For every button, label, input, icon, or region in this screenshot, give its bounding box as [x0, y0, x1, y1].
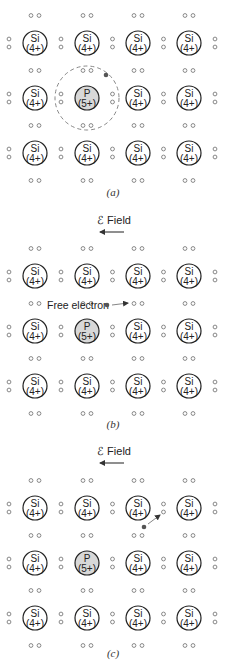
valence-electron-icon [183, 589, 187, 593]
valence-electron-icon [132, 124, 136, 128]
valence-electron-icon [111, 270, 115, 274]
valence-electron-icon [59, 37, 63, 41]
valence-electron-icon [213, 510, 217, 514]
valence-electron-icon [191, 124, 195, 128]
valence-electron-icon [89, 69, 93, 73]
valence-electron-icon [132, 302, 136, 306]
silicon-atom: Si(4+) [177, 31, 201, 55]
atom-charge: (4+) [26, 43, 44, 54]
valence-electron-icon [213, 388, 217, 392]
atom-charge: (4+) [26, 153, 44, 164]
silicon-atom: Si(4+) [23, 86, 47, 110]
silicon-atom: Si(4+) [75, 141, 99, 165]
silicon-atom: Si(4+) [126, 551, 150, 575]
valence-electron-icon [111, 380, 115, 384]
valence-electron-icon [132, 179, 136, 183]
atom-charge: (4+) [26, 508, 44, 519]
atom-charge: (4+) [78, 386, 96, 397]
valence-electron-icon [140, 644, 144, 648]
atom-charge: (4+) [129, 153, 147, 164]
valence-electron-icon [89, 534, 93, 538]
valence-electron-icon [213, 325, 217, 329]
valence-electron-icon [111, 37, 115, 41]
valence-electron-icon [7, 565, 11, 569]
valence-electron-icon [162, 557, 166, 561]
valence-electron-icon [132, 357, 136, 361]
atom-charge: (4+) [78, 618, 96, 629]
valence-electron-icon [7, 270, 11, 274]
valence-electron-icon [89, 247, 93, 251]
valence-electron-icon [191, 412, 195, 416]
valence-electron-icon [37, 69, 41, 73]
valence-electron-icon [132, 589, 136, 593]
atom-charge: (4+) [129, 98, 147, 109]
valence-electron-icon [191, 302, 195, 306]
valence-electron-icon [140, 479, 144, 483]
valence-electron-icon [213, 45, 217, 49]
valence-electron-icon [7, 612, 11, 616]
valence-electron-icon [89, 412, 93, 416]
phosphorus-atom: P(5+) [75, 319, 99, 343]
valence-electron-icon [111, 45, 115, 49]
valence-electron-icon [213, 612, 217, 616]
valence-electron-icon [37, 357, 41, 361]
valence-electron-icon [111, 565, 115, 569]
electron-motion-arrow-icon [112, 303, 128, 305]
atom-charge: (4+) [180, 276, 198, 287]
silicon-atom: Si(4+) [126, 319, 150, 343]
valence-electron-icon [59, 147, 63, 151]
valence-electron-icon [213, 155, 217, 159]
valence-electron-icon [111, 502, 115, 506]
valence-electron-icon [89, 124, 93, 128]
valence-electron-icon [29, 479, 33, 483]
valence-electron-icon [81, 14, 85, 18]
valence-electron-icon [29, 589, 33, 593]
atom-charge: (5+) [78, 98, 96, 109]
valence-electron-icon [59, 557, 63, 561]
valence-electron-icon [140, 357, 144, 361]
donor-lattice-diagram: Si(4+)Si(4+)Si(4+)Si(4+)Si(4+)P(5+)Si(4+… [0, 0, 229, 661]
valence-electron-icon [59, 270, 63, 274]
silicon-atom: Si(4+) [126, 31, 150, 55]
atom-charge: (4+) [129, 276, 147, 287]
valence-electron-icon [111, 155, 115, 159]
valence-electron-icon [213, 620, 217, 624]
valence-electron-icon [37, 534, 41, 538]
atom-charge: (4+) [78, 43, 96, 54]
valence-electron-icon [191, 179, 195, 183]
valence-electron-icon [111, 388, 115, 392]
silicon-atom: Si(4+) [23, 606, 47, 630]
valence-electron-icon [81, 644, 85, 648]
valence-electron-icon [111, 100, 115, 104]
silicon-atom: Si(4+) [177, 606, 201, 630]
atom-charge: (4+) [180, 43, 198, 54]
valence-electron-icon [162, 45, 166, 49]
valence-electron-icon [191, 479, 195, 483]
valence-electron-icon [213, 380, 217, 384]
valence-electron-icon [132, 14, 136, 18]
valence-electron-icon [162, 565, 166, 569]
free-electron-icon [142, 525, 147, 530]
silicon-atom: Si(4+) [23, 319, 47, 343]
valence-electron-icon [162, 333, 166, 337]
panel-label: (b) [107, 418, 120, 431]
valence-electron-icon [59, 502, 63, 506]
panel-a: Si(4+)Si(4+)Si(4+)Si(4+)Si(4+)P(5+)Si(4+… [7, 14, 217, 199]
atom-charge: (4+) [180, 98, 198, 109]
valence-electron-icon [59, 333, 63, 337]
silicon-atom: Si(4+) [177, 374, 201, 398]
valence-electron-icon [81, 412, 85, 416]
valence-electron-icon [81, 357, 85, 361]
valence-electron-icon [7, 333, 11, 337]
valence-electron-icon [59, 388, 63, 392]
valence-electron-icon [140, 14, 144, 18]
valence-electron-icon [191, 14, 195, 18]
silicon-atom: Si(4+) [126, 606, 150, 630]
atom-charge: (4+) [129, 563, 147, 574]
atom-charge: (4+) [180, 563, 198, 574]
silicon-atom: Si(4+) [177, 319, 201, 343]
atom-charge: (4+) [129, 331, 147, 342]
valence-electron-icon [111, 325, 115, 329]
silicon-atom: Si(4+) [126, 264, 150, 288]
valence-electron-icon [132, 479, 136, 483]
